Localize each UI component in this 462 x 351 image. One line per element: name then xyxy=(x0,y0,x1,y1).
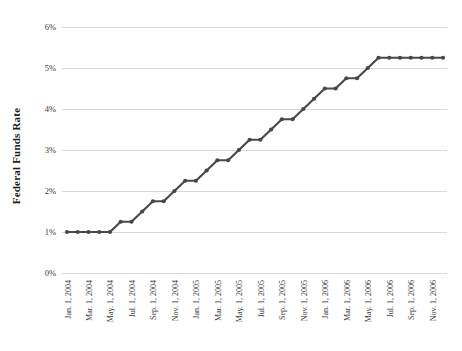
data-point-marker xyxy=(226,158,230,162)
y-tick-label: 4% xyxy=(45,104,56,114)
data-point-marker xyxy=(419,56,423,60)
data-point-marker xyxy=(129,220,133,224)
data-point-marker xyxy=(280,117,284,121)
data-point-marker xyxy=(119,220,123,224)
data-point-marker xyxy=(269,127,273,131)
x-tick-label: May. 1, 2005 xyxy=(235,280,244,322)
data-point-marker xyxy=(140,209,144,213)
data-point-marker xyxy=(97,230,101,234)
data-point-marker xyxy=(355,76,359,80)
data-point-marker xyxy=(376,56,380,60)
data-point-marker xyxy=(387,56,391,60)
data-point-marker xyxy=(398,56,402,60)
data-point-marker xyxy=(301,107,305,111)
y-tick-label: 5% xyxy=(45,63,56,73)
data-point-marker xyxy=(76,230,80,234)
data-point-marker xyxy=(194,179,198,183)
data-point-marker xyxy=(366,66,370,70)
y-tick-label: 1% xyxy=(45,227,56,237)
data-point-marker xyxy=(86,230,90,234)
x-axis-tick-labels: Jan. 1, 2004Mar. 1, 2004May. 1, 2004Jul.… xyxy=(64,280,438,322)
data-point-marker xyxy=(312,97,316,101)
data-point-marker xyxy=(237,148,241,152)
y-tick-label: 0% xyxy=(45,268,56,278)
x-tick-label: Jul. 1, 2005 xyxy=(257,280,266,317)
x-tick-label: Sep. 1, 2005 xyxy=(278,280,287,320)
x-tick-label: Mar. 1, 2004 xyxy=(85,280,94,321)
x-tick-label: Jul. 1, 2004 xyxy=(128,280,137,317)
y-tick-label: 2% xyxy=(45,186,56,196)
x-tick-label: Nov. 1, 2004 xyxy=(171,280,180,321)
data-point-marker xyxy=(151,199,155,203)
data-point-marker xyxy=(333,86,337,90)
data-point-marker xyxy=(441,56,445,60)
data-point-marker xyxy=(215,158,219,162)
x-tick-label: Jan. 1, 2004 xyxy=(64,280,73,319)
x-tick-label: Mar. 1, 2005 xyxy=(214,280,223,321)
data-point-marker xyxy=(344,76,348,80)
data-point-marker xyxy=(409,56,413,60)
data-point-marker xyxy=(108,230,112,234)
x-tick-label: Nov. 1, 2006 xyxy=(429,280,438,321)
x-tick-label: Jul. 1, 2006 xyxy=(386,280,395,317)
chart-canvas: 0%1%2%3%4%5%6% Jan. 1, 2004Mar. 1, 2004M… xyxy=(0,0,462,351)
data-point-marker xyxy=(162,199,166,203)
x-tick-label: May. 1, 2004 xyxy=(106,280,115,322)
y-axis-tick-labels: 0%1%2%3%4%5%6% xyxy=(45,22,56,278)
data-point-marker xyxy=(291,117,295,121)
y-tick-label: 6% xyxy=(45,22,56,32)
data-series-group xyxy=(65,56,445,234)
x-tick-label: Sep. 1, 2006 xyxy=(407,280,416,320)
x-tick-label: Sep. 1, 2004 xyxy=(149,280,158,320)
x-tick-label: May. 1, 2006 xyxy=(364,280,373,322)
data-point-marker xyxy=(172,189,176,193)
data-point-marker xyxy=(183,179,187,183)
y-axis-title: Federal Funds Rate xyxy=(10,108,22,204)
x-tick-label: Nov. 1, 2005 xyxy=(300,280,309,321)
data-point-marker xyxy=(430,56,434,60)
data-point-marker xyxy=(205,168,209,172)
y-tick-label: 3% xyxy=(45,145,56,155)
x-tick-label: Jan. 1, 2006 xyxy=(321,280,330,319)
data-point-marker xyxy=(323,86,327,90)
data-point-marker xyxy=(65,230,69,234)
gridlines-group xyxy=(62,27,447,273)
federal-funds-rate-line xyxy=(67,58,443,232)
data-point-marker xyxy=(248,138,252,142)
data-point-marker xyxy=(258,138,262,142)
x-tick-label: Jan. 1, 2005 xyxy=(192,280,201,319)
x-tick-label: Mar. 1, 2006 xyxy=(343,280,352,321)
federal-funds-rate-chart: 0%1%2%3%4%5%6% Jan. 1, 2004Mar. 1, 2004M… xyxy=(0,0,462,351)
